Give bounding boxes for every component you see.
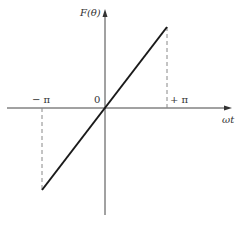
sawtooth-diagram: F(θ) 0 − π + π ωt bbox=[0, 0, 238, 225]
x-axis-label: ωt bbox=[222, 114, 235, 125]
origin-label: 0 bbox=[94, 94, 100, 105]
x-axis-arrow-icon bbox=[224, 106, 232, 111]
neg-pi-label: − π bbox=[32, 94, 51, 105]
pos-pi-label: + π bbox=[170, 94, 189, 105]
y-axis-label: F(θ) bbox=[79, 7, 101, 18]
y-axis-arrow-icon bbox=[103, 9, 108, 17]
